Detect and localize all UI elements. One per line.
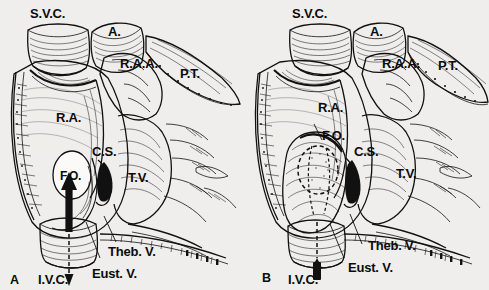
label-pt-a: P.T. [180,66,200,81]
panel-letter-a: A [10,273,19,287]
label-cs-a: C.S. [92,144,116,159]
label-ivc-b: I.V.C. [288,272,318,287]
label-raa-a: R.A.A. [120,56,158,71]
panel-letter-b: B [262,271,271,285]
label-tv-a: T.V. [128,170,148,185]
label-pt-b: P.T. [438,58,458,73]
label-svc-b: S.V.C. [292,6,327,21]
label-theb-a: Theb. V. [108,244,156,259]
figure-container: S.V.C. A. R.A.A. P.T. R.A. F.O. C.S. T.V… [0,0,489,290]
label-ra-b: R.A. [318,100,343,115]
label-ra-a: R.A. [56,110,81,125]
label-raa-b: R.A.A. [382,56,420,71]
label-fo-a: F.O. [60,169,81,183]
label-cs-b: C.S. [354,144,378,159]
label-fo-b: F.O. [322,128,345,143]
label-aorta-b: A. [370,24,383,39]
label-tv-b: T.V. [396,166,416,181]
label-eust-b: Eust. V. [348,260,393,275]
label-theb-b: Theb. V. [368,238,416,253]
label-aorta-a: A. [108,24,121,39]
label-ivc-a: I.V.C. [38,272,68,287]
label-svc-a: S.V.C. [30,6,65,21]
label-eust-a: Eust. V. [92,266,137,281]
